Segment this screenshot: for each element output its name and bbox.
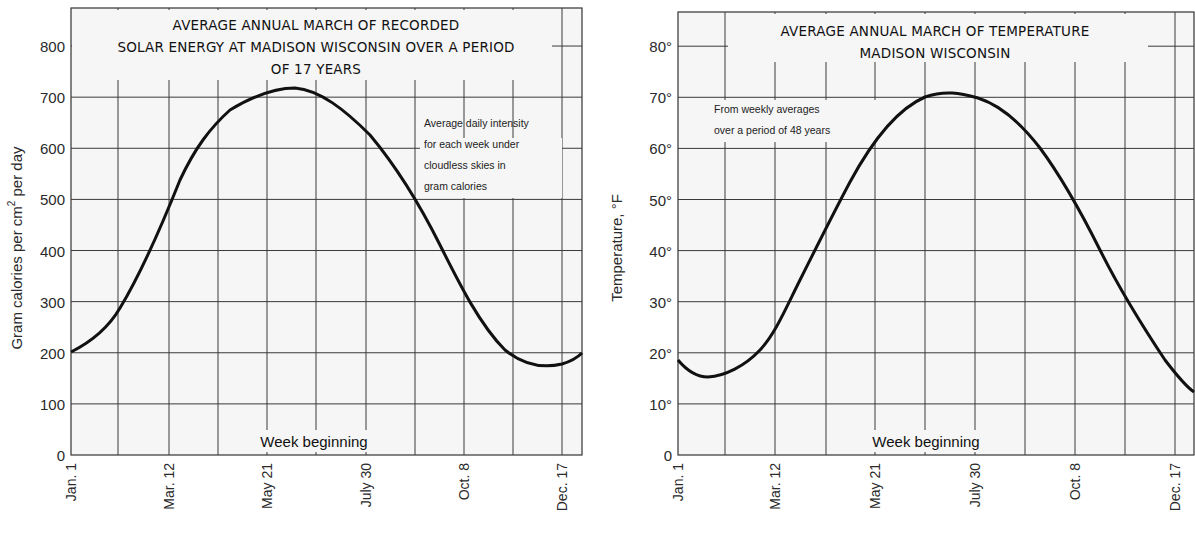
temperature-svg: AVERAGE ANNUAL MARCH OF TEMPERATURE MADI… [600, 0, 1195, 538]
y-axis-ticks: 0100200300400500600700800 [40, 38, 65, 464]
chart-title-line-3: OF 17 YEARS [271, 61, 361, 77]
x-axis-title: Week beginning [260, 433, 367, 450]
x-tick-label: July 30 [358, 463, 374, 508]
y-tick-label: 40° [649, 243, 672, 260]
annotation-line-1: Average daily intensity [424, 117, 530, 129]
annotation-line-2: for each week under [424, 138, 520, 150]
y-tick-label: 400 [40, 243, 65, 260]
y-tick-label: 0 [664, 447, 672, 464]
y-tick-label: 700 [40, 89, 65, 106]
y-tick-label: 20° [649, 345, 672, 362]
x-axis-ticks: Jan. 1Mar. 12May 21July 30Oct. 8Dec. 17 [63, 463, 570, 511]
y-tick-label: 80° [649, 38, 672, 55]
y-tick-label: 600 [40, 140, 65, 157]
temperature-chart: AVERAGE ANNUAL MARCH OF TEMPERATURE MADI… [600, 0, 1195, 538]
y-tick-label: 800 [40, 38, 65, 55]
x-tick-label: July 30 [967, 463, 983, 508]
y-tick-label: 0 [57, 447, 65, 464]
y-tick-label: 50° [649, 192, 672, 209]
y-axis-title: Gram calories per cm2 per day [6, 146, 25, 350]
y-tick-label: 30° [649, 294, 672, 311]
solar-energy-chart: AVERAGE ANNUAL MARCH OF RECORDED SOLAR E… [0, 0, 600, 538]
chart-title-line-2: MADISON WISCONSIN [860, 45, 1011, 61]
y-tick-label: 300 [40, 294, 65, 311]
annotation-line-4: gram calories [424, 180, 487, 192]
x-tick-label: Oct. 8 [1067, 463, 1083, 501]
y-axis-title: Temperature, °F [608, 194, 625, 302]
chart-title-line-2: SOLAR ENERGY AT MADISON WISCONSIN OVER A… [117, 39, 514, 55]
chart-title-line-1: AVERAGE ANNUAL MARCH OF RECORDED [173, 17, 460, 33]
y-tick-label: 500 [40, 191, 65, 208]
x-tick-label: May 21 [259, 463, 275, 509]
x-tick-label: Mar. 12 [767, 463, 783, 510]
x-tick-label: Dec. 17 [1167, 463, 1183, 511]
y-axis-ticks: 010°20°30°40°50°60°70°80° [649, 38, 672, 464]
x-tick-label: Jan. 1 [63, 463, 79, 501]
x-tick-label: Oct. 8 [456, 463, 472, 501]
chart-title-line-1: AVERAGE ANNUAL MARCH OF TEMPERATURE [781, 23, 1090, 39]
x-tick-label: Dec. 17 [554, 463, 570, 511]
x-tick-label: May 21 [867, 463, 883, 509]
x-axis-ticks: Jan. 1Mar. 12May 21July 30Oct. 8Dec. 17 [670, 463, 1183, 511]
annotation-line-1: From weekly averages [714, 103, 820, 115]
solar-energy-svg: AVERAGE ANNUAL MARCH OF RECORDED SOLAR E… [0, 0, 600, 538]
y-tick-label: 200 [40, 345, 65, 362]
x-axis-title: Week beginning [872, 433, 979, 450]
annotation-line-2: over a period of 48 years [714, 124, 830, 136]
y-tick-label: 70° [649, 89, 672, 106]
plot-area [678, 12, 1194, 455]
y-tick-label: 100 [40, 396, 65, 413]
y-tick-label: 10° [649, 396, 672, 413]
x-tick-label: Jan. 1 [670, 463, 686, 501]
x-tick-label: Mar. 12 [161, 463, 177, 510]
annotation-line-3: cloudless skies in [424, 159, 506, 171]
y-tick-label: 60° [649, 140, 672, 157]
